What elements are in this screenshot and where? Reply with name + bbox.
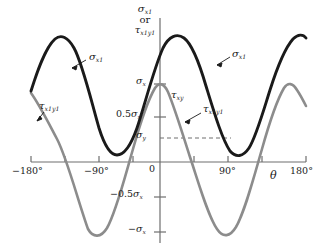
plot-canvas <box>0 0 325 252</box>
y-axis-title: σx1 or τx1y1 <box>124 4 166 36</box>
y-tick-label-neg-half-sigma-x: −0.5σx <box>110 189 143 199</box>
x-tick-label--90: −90° <box>84 166 109 176</box>
annotation-sigma-x1-right: σx1 <box>232 49 246 60</box>
y-axis-title-line3: τx1y1 <box>124 25 166 36</box>
y-tick-label-neg-sigma-x: −σx <box>128 224 146 234</box>
x-axis-ticks <box>31 156 306 162</box>
x-axis-symbol-theta: θ <box>270 170 277 182</box>
x-tick-label-90: 90° <box>219 166 236 176</box>
y-axis-title-line2: or <box>124 15 166 26</box>
y-tick-label-half-sigma-x: 0.5σx <box>116 109 141 119</box>
annotation-sigma-x1-left: σx1 <box>89 52 103 63</box>
y-tick-label-sigma-y: σy <box>136 130 146 140</box>
y-tick-label-sigma-x: σx <box>136 76 146 86</box>
axes <box>31 18 306 243</box>
annotation-tau-x1y1-right: τx1y1 <box>203 104 223 115</box>
annotation-tau-x1y1-left: τx1y1 <box>39 101 59 112</box>
x-tick-label-0: 0 <box>149 164 155 174</box>
x-tick-label-180: 180° <box>290 166 313 176</box>
stress-transformation-figure: σx1 or τx1y1 σx 0.5σx σy −0.5σx −σx −180… <box>0 0 325 252</box>
annotation-tau-xy: τxy <box>171 90 184 101</box>
y-axis-title-line1: σx1 <box>124 4 166 15</box>
x-tick-label--180: −180° <box>12 166 43 176</box>
